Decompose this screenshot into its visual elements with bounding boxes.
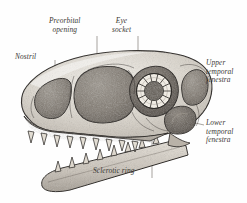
sclerotic-ring [137,74,172,109]
label-eye-socket: Eye socket [112,17,131,34]
preorbital-opening [74,66,136,122]
label-nostril: Nostril [15,53,36,62]
quadrate-base [168,133,190,147]
label-preorbital-opening: Preorbital opening [49,17,81,34]
label-lower-temporal-fenestra: Lower temporal fenestra [206,119,234,145]
label-sclerotic-ring: Sclerotic ring [93,167,135,176]
label-upper-temporal-fenestra: Upper temporal fenestra [206,59,234,85]
lower-temporal-fenestra [164,106,196,134]
